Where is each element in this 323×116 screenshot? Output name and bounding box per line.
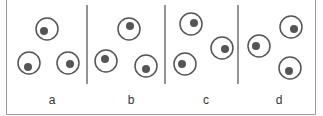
diagram: abcd bbox=[0, 0, 323, 116]
nucleus-dot bbox=[178, 60, 186, 68]
nucleus-dot bbox=[252, 42, 260, 50]
panel-label: d bbox=[276, 93, 283, 107]
panel-label: c bbox=[203, 93, 209, 107]
nucleus-dot bbox=[290, 25, 298, 33]
panel-b: b bbox=[95, 18, 157, 107]
nucleus-dot bbox=[126, 22, 134, 30]
cell-circle bbox=[36, 18, 58, 40]
cell-circle bbox=[280, 16, 302, 38]
panels: abcd bbox=[18, 13, 302, 107]
nucleus-dot bbox=[24, 63, 32, 71]
cell-circle bbox=[279, 57, 301, 79]
nucleus-dot bbox=[101, 55, 109, 63]
panel-label: a bbox=[49, 93, 56, 107]
nucleus-dot bbox=[221, 45, 229, 53]
cell-circle bbox=[18, 52, 40, 74]
cell-circle bbox=[118, 18, 140, 40]
cell-circle bbox=[174, 53, 196, 75]
panel-label: b bbox=[128, 93, 135, 107]
cell-circle bbox=[95, 50, 117, 72]
nucleus-dot bbox=[40, 27, 48, 35]
panel-d: d bbox=[248, 16, 302, 107]
cell-circle bbox=[135, 55, 157, 77]
nucleus-dot bbox=[285, 67, 293, 75]
panel-c: c bbox=[174, 13, 233, 107]
nucleus-dot bbox=[190, 19, 198, 27]
cell-circle bbox=[57, 52, 79, 74]
cell-circle bbox=[211, 37, 233, 59]
nucleus-dot bbox=[66, 60, 74, 68]
cell-circle bbox=[248, 35, 270, 57]
panel-a: a bbox=[18, 18, 79, 107]
nucleus-dot bbox=[142, 65, 150, 73]
cell-circle bbox=[180, 13, 202, 35]
